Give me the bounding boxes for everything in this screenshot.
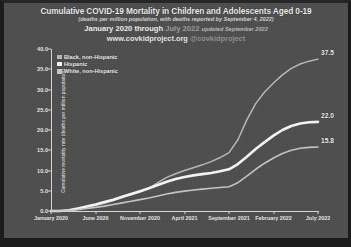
x-tick-mark: [318, 211, 319, 214]
series-line: [51, 122, 318, 211]
project-url: www.covkidproject.org: [107, 34, 188, 43]
x-tick-mark: [229, 211, 230, 214]
x-tick-label: June 2020: [82, 215, 108, 221]
legend-swatch-icon: [57, 55, 62, 60]
y-axis-title-wrap: Cumulative mortality rate (deaths per mi…: [4, 49, 18, 212]
project-handle: @covkidproject: [190, 34, 245, 43]
legend-item-label: White, non-Hispanic: [64, 68, 118, 74]
legend-item-label: Black, non-Hispanic: [64, 54, 117, 60]
date-range-highlight: July 2022: [165, 24, 199, 33]
x-tick-label: September 2021: [208, 215, 249, 221]
legend-item[interactable]: Hispanic: [57, 61, 118, 67]
legend-item-label: Hispanic: [64, 61, 87, 67]
x-tick-label: July 2022: [306, 215, 330, 221]
x-tick-mark: [273, 211, 274, 214]
series-line: [51, 147, 318, 211]
series-end-value: 37.5: [321, 49, 334, 56]
x-tick-label: February 2022: [255, 215, 292, 221]
series-end-value: 22.0: [321, 112, 334, 119]
date-range-prefix: January 2020 through: [84, 24, 163, 33]
legend-swatch-icon: [57, 69, 62, 74]
chart-source-line: www.covkidproject.org @covkidproject: [4, 35, 348, 43]
chart-legend: Black, non-HispanicHispanicWhite, non-Hi…: [57, 54, 118, 74]
chart-date-range: January 2020 through July 2022 updated S…: [4, 25, 348, 33]
series-end-value: 15.8: [321, 137, 334, 144]
legend-item[interactable]: White, non-Hispanic: [57, 68, 118, 74]
chart-figure: Cumulative COVID-19 Mortality in Childre…: [0, 0, 351, 247]
x-tick-label: April 2021: [172, 215, 198, 221]
x-axis-line: [51, 211, 319, 212]
legend-swatch-icon: [57, 62, 62, 67]
page-title: Cumulative COVID-19 Mortality in Childre…: [4, 7, 348, 16]
series-line: [51, 59, 318, 211]
x-tick-mark: [140, 211, 141, 214]
x-tick-label: January 2020: [34, 215, 68, 221]
x-tick-label: November 2020: [120, 215, 160, 221]
x-tick-mark: [95, 211, 96, 214]
legend-item[interactable]: Black, non-Hispanic: [57, 54, 118, 60]
chart-title-block: Cumulative COVID-19 Mortality in Childre…: [4, 7, 348, 43]
chart-subtitle: (deaths per million population, with dea…: [4, 17, 348, 23]
date-range-updated: updated September 2022: [202, 26, 268, 32]
x-tick-mark: [184, 211, 185, 214]
